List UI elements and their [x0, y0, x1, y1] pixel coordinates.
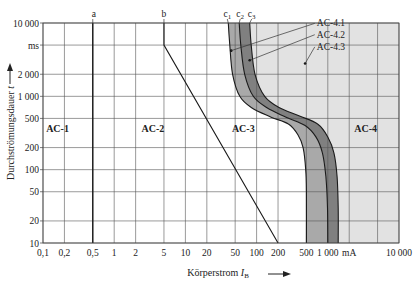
- x-tick-label: 0,1: [37, 248, 49, 258]
- x-tick-label: 0,2: [58, 248, 70, 258]
- annotation-ac-4-2: AC-4.2: [317, 30, 345, 40]
- y-axis-label: Durchströmungsdauer t: [5, 86, 16, 180]
- y-tick-label: 50: [30, 187, 40, 197]
- chart-container: 0,10,20,51251020501002005001 000mA10 000…: [0, 0, 418, 284]
- y-tick-label: 2 000: [18, 70, 40, 80]
- y-tick-label: 20: [30, 216, 40, 226]
- curve-label-a: a: [92, 9, 97, 19]
- x-tick-label: 20: [202, 248, 212, 258]
- current-time-chart: 0,10,20,51251020501002005001 000mA10 000…: [0, 0, 418, 284]
- x-tick-label: 50: [230, 248, 240, 258]
- y-tick-label: 10 000: [13, 19, 39, 29]
- y-axis-arrow-icon: [7, 63, 13, 84]
- y-tick-label: 1 000: [18, 92, 40, 102]
- annotation-ac-4-3: AC-4.3: [317, 42, 345, 52]
- zone-label-ac-3: AC-3: [232, 123, 255, 134]
- x-tick-label: 1: [112, 248, 117, 258]
- x-axis-label: Körperstrom IB: [187, 267, 249, 280]
- curve-labels: abc1c2c3: [92, 9, 256, 23]
- x-tick-label: 200: [271, 248, 286, 258]
- x-tick-label: 0,5: [87, 248, 99, 258]
- zone-label-ac-4: AC-4: [354, 123, 377, 134]
- annotation-ac-4-1: AC-4.1: [317, 18, 345, 28]
- y-tick-label: 200: [25, 143, 40, 153]
- zone-label-ac-2: AC-2: [142, 123, 165, 134]
- x-axis-arrow-icon: [268, 271, 291, 277]
- y-tick-label: 100: [25, 165, 40, 175]
- x-tick-label: 1 000: [317, 248, 339, 258]
- x-tick-label: 10: [181, 248, 191, 258]
- y-tick-label: 500: [25, 114, 40, 124]
- curve-label-b: b: [162, 9, 167, 19]
- y-tick-label: ms: [28, 41, 39, 51]
- x-axis-title: Körperstrom IB: [187, 267, 291, 280]
- zone-label-ac-1: AC-1: [46, 123, 69, 134]
- x-axis-ticks: 0,10,20,51251020501002005001 000mA10 000: [37, 248, 412, 258]
- x-tick-label: mA: [342, 248, 356, 258]
- x-tick-label: 2: [133, 248, 138, 258]
- x-tick-label: 5: [162, 248, 167, 258]
- x-tick-label: 100: [249, 248, 264, 258]
- x-tick-label: 10 000: [386, 248, 412, 258]
- y-tick-label: 10: [30, 239, 40, 249]
- y-axis-ticks: 1020501002005001 0002 000ms10 000: [13, 19, 43, 249]
- y-axis-title: Durchströmungsdauer t: [5, 63, 16, 180]
- x-tick-label: 500: [299, 248, 314, 258]
